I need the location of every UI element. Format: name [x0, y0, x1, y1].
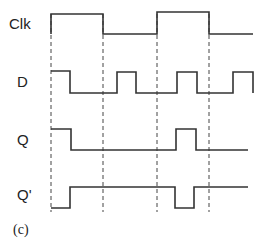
waveform-q-bar: [51, 187, 248, 208]
waveform-clk: [51, 12, 253, 34]
signal-label-q: Q: [17, 131, 29, 148]
signal-label-q-bar: Q': [17, 186, 32, 203]
waveform-d: [51, 71, 253, 93]
signal-label-clk: Clk: [9, 15, 31, 32]
timing-diagram: [0, 0, 265, 240]
waveform-q: [51, 129, 248, 150]
signal-label-d: D: [17, 73, 28, 90]
figure-caption: (c): [13, 222, 29, 238]
clock-edge-guides: [51, 14, 209, 212]
waveforms: [51, 12, 253, 208]
